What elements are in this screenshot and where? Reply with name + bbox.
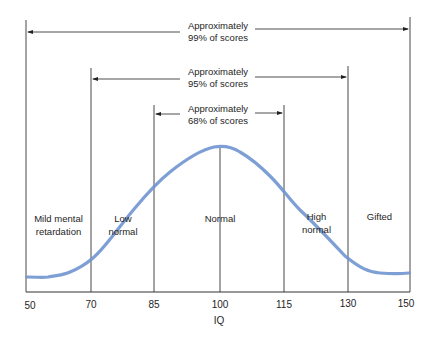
region-gifted-label: Gifted [349,211,410,224]
range-68-line1: Approximately [183,103,253,115]
x-axis-label: IQ [214,315,225,326]
region-low-line2: normal [92,226,154,239]
tick-100: 100 [212,299,229,310]
range-95-line1: Approximately [183,66,253,78]
region-gifted-line1: Gifted [349,211,410,224]
region-high-line1: High [285,211,348,224]
tick-70: 70 [85,299,96,310]
tick-150: 150 [398,298,415,309]
range-95-label: Approximately 95% of scores [181,66,255,90]
region-mild-line2: retardation [27,226,90,239]
range-68-label: Approximately 68% of scores [181,103,255,127]
range-99-line1: Approximately [183,20,253,32]
diagram-lines [0,0,436,337]
region-low-label: Low normal [92,213,154,238]
region-mild-label: Mild mental retardation [27,213,90,238]
range-99-line2: 99% of scores [183,32,253,44]
region-normal-line1: Normal [155,213,285,226]
tick-115: 115 [276,299,292,310]
region-high-label: High normal [285,211,348,236]
tick-85: 85 [148,299,159,310]
region-high-line2: normal [285,224,348,237]
range-68-line2: 68% of scores [183,115,253,127]
range-95-line2: 95% of scores [183,78,253,90]
region-normal-label: Normal [155,213,285,226]
iq-distribution-figure: Approximately 99% of scores Approximatel… [0,0,436,337]
region-mild-line1: Mild mental [27,213,90,226]
range-99-label: Approximately 99% of scores [181,20,255,44]
region-low-line1: Low [92,213,154,226]
tick-50: 50 [24,300,35,311]
tick-130: 130 [340,298,357,309]
